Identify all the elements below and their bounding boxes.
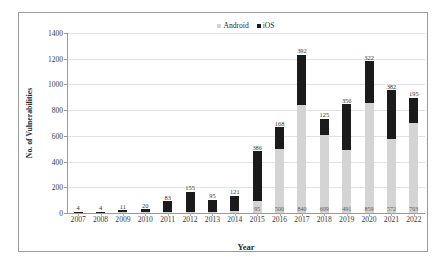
bar-column: 168500 [268,33,290,213]
legend-item-android: Android [217,21,248,30]
x-tick-label: 2013 [201,215,223,229]
bar-value-label-android: 491 [342,206,351,212]
x-tick-label: 2008 [89,215,111,229]
x-tick-label: 2016 [268,215,290,229]
x-tick-label: 2011 [157,215,179,229]
legend-item-ios: iOS [257,21,275,30]
chart-legend: Android iOS [67,21,425,30]
bar-column: 392840 [291,33,313,213]
bar-value-label-android: 95 [254,206,260,212]
legend-swatch-android-icon [217,24,221,28]
x-tick-label: 2015 [246,215,268,229]
legend-swatch-ios-icon [257,24,261,28]
x-tick-label: 2017 [291,215,313,229]
bar-segment-ios: 356 [342,104,351,150]
bar-segment-android: 95 [253,201,262,213]
bar-column: 322859 [358,33,380,213]
bar-value-label-android: 572 [387,206,396,212]
bar-segment-android: 491 [342,150,351,213]
bar-segment-ios: 195 [409,98,418,123]
x-axis-line [67,213,425,214]
y-tick-label: 0 [23,209,63,218]
bar-value-label-ios: 195 [409,90,419,97]
bar-column: 155 [179,33,201,213]
bar-segment-ios: 155 [186,192,195,212]
x-tick-label: 2018 [313,215,335,229]
bar-value-label-ios: 11 [120,203,126,210]
x-tick-label: 2009 [112,215,134,229]
bar-value-label-android: 840 [297,206,306,212]
x-tick-label: 2021 [380,215,402,229]
bar-value-label-ios: 121 [230,188,240,195]
bar-value-label-ios: 4 [99,204,102,211]
bar-column: 20 [134,33,156,213]
x-tick-label: 2012 [179,215,201,229]
bar-segment-android: 859 [365,103,374,213]
bar-column: 195703 [403,33,425,213]
bar-column: 125609 [313,33,335,213]
x-tick-label: 2019 [336,215,358,229]
bar-value-label-android: 500 [275,206,284,212]
bar-column: 4 [67,33,89,213]
y-tick-label: 200 [23,183,63,192]
chart-frame: Android iOS 0200400600800100012001400 No… [18,12,428,252]
bar-value-label-android: 703 [409,206,418,212]
bar-value-label-ios: 322 [364,54,374,61]
bar-column: 382572 [380,33,402,213]
bar-segment-ios: 83 [163,201,172,212]
x-axis-title: Year [67,242,425,252]
bar-segment-ios: 392 [297,55,306,105]
bar-column: 11 [112,33,134,213]
x-tick-label: 2022 [403,215,425,229]
legend-label-android: Android [223,21,248,30]
bar-segment-ios: 121 [230,196,239,212]
bar-segment-ios: 382 [387,90,396,139]
y-tick-label: 400 [23,157,63,166]
bar-column: 95 [201,33,223,213]
bar-value-label-ios: 386 [252,144,262,151]
bar-value-label-ios: 4 [77,204,80,211]
bar-segment-android: 703 [409,123,418,213]
x-tick-label: 2020 [358,215,380,229]
x-axis-ticks: 2007200820092010201120122013201420152016… [67,215,425,229]
x-tick-label: 2007 [67,215,89,229]
bar-value-label-ios: 168 [275,120,285,127]
bar-value-label-ios: 392 [297,47,307,54]
bar-segment-ios: 125 [320,119,329,135]
legend-label-ios: iOS [263,21,275,30]
bar-segment-ios: 322 [365,61,374,102]
bar-value-label-ios: 382 [387,83,397,90]
bar-series-group: 4411208315595121386951685003928401256093… [67,33,425,213]
bar-column: 121 [224,33,246,213]
bar-segment-ios: 168 [275,127,284,149]
bar-value-label-ios: 155 [185,184,195,191]
bar-segment-android: 500 [275,149,284,213]
y-tick-label: 1400 [23,29,63,38]
bar-column: 38695 [246,33,268,213]
y-axis-title: No. of Vulnerabilities [25,88,34,158]
bar-value-label-ios: 20 [142,202,148,209]
bar-value-label-android: 859 [365,206,374,212]
bar-segment-android: 572 [387,139,396,213]
bar-segment-android: 840 [297,105,306,213]
bar-segment-ios: 386 [253,151,262,201]
bar-column: 4 [89,33,111,213]
bar-value-label-ios: 95 [209,192,215,199]
x-tick-label: 2014 [224,215,246,229]
bar-value-label-ios: 356 [342,97,352,104]
y-tick-label: 1200 [23,54,63,63]
bar-value-label-android: 609 [320,206,329,212]
bar-segment-ios: 95 [208,200,217,212]
bar-value-label-ios: 83 [164,194,170,201]
bar-column: 356491 [336,33,358,213]
x-tick-label: 2010 [134,215,156,229]
plot-area: 0200400600800100012001400 No. of Vulnera… [67,33,425,213]
bar-value-label-ios: 125 [320,111,330,118]
bar-column: 83 [157,33,179,213]
bar-segment-android: 609 [320,135,329,213]
